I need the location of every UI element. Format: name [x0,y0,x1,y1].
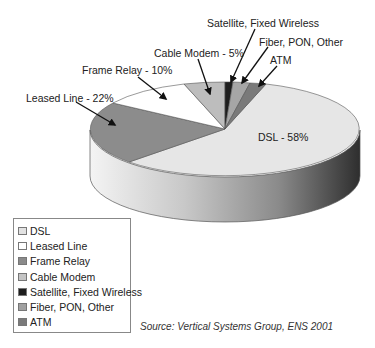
legend-label: ATM [30,316,51,328]
pie-top [90,82,359,176]
legend-label: DSL [30,225,50,237]
label-satellite: Satellite, Fixed Wireless [207,17,319,29]
legend-item-fiber: Fiber, PON, Other [18,299,130,314]
swatch-icon [18,318,27,326]
legend-item-cable-modem: Cable Modem [18,269,130,284]
label-fiber: Fiber, PON, Other [259,36,344,48]
label-cable-modem: Cable Modem - 5% [154,47,244,59]
legend-item-atm: ATM [18,315,130,330]
legend-item-leased-line: Leased Line [18,238,130,253]
swatch-icon [18,227,27,235]
source-caption: Source: Vertical Systems Group, ENS 2001 [140,321,333,332]
legend-item-dsl: DSL [18,223,130,238]
arrow-atm [259,66,277,86]
legend-label: Cable Modem [30,271,95,283]
label-atm: ATM [270,54,291,66]
swatch-icon [18,303,27,311]
swatch-icon [18,242,27,250]
label-dsl: DSL - 58% [258,131,308,143]
label-leased-line: Leased Line - 22% [26,92,114,104]
swatch-icon [18,257,27,265]
legend-item-frame-relay: Frame Relay [18,254,130,269]
legend: DSL Leased Line Frame Relay Cable Modem … [13,218,131,333]
label-frame-relay: Frame Relay - 10% [82,64,172,76]
swatch-icon [18,288,27,296]
legend-label: Leased Line [30,240,87,252]
swatch-icon [18,273,27,281]
legend-label: Fiber, PON, Other [30,301,114,313]
legend-item-satellite: Satellite, Fixed Wireless [18,284,130,299]
legend-label: Satellite, Fixed Wireless [30,286,142,298]
legend-label: Frame Relay [30,255,90,267]
arrow-fiber [242,47,268,83]
